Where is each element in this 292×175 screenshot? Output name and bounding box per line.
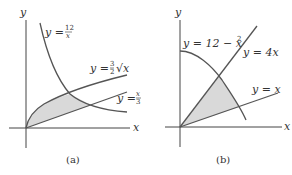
x-axis-label-b: x — [284, 120, 291, 133]
shaded-region-b — [180, 77, 239, 127]
svg-text:2: 2 — [110, 68, 114, 76]
y-axis-label-a: y — [19, 6, 27, 19]
svg-text:x: x — [136, 90, 140, 98]
label-12-minus-x-squared: y = 12 − x 2 — [182, 35, 243, 50]
svg-text:y =: y = — [116, 92, 136, 105]
svg-text:√x: √x — [116, 62, 130, 75]
svg-text:12: 12 — [65, 24, 74, 32]
panel-a: y x y = 12 x y = 3 2 √x y = x 3 (a) — [9, 6, 141, 165]
label-12-over-x: y = 12 x — [44, 24, 74, 40]
label-y-equals-x: y = x — [251, 83, 281, 96]
svg-text:y = 12 − x: y = 12 − x — [182, 37, 243, 50]
svg-text:2: 2 — [237, 35, 241, 43]
svg-text:y =: y = — [44, 26, 64, 39]
label-x-over-3: y = x 3 — [116, 90, 141, 106]
caption-b: (b) — [216, 154, 230, 165]
svg-text:y =: y = — [89, 62, 109, 75]
label-4x: y = 4x — [242, 46, 279, 59]
panel-b: y x y = 12 − x 2 y = 4x y = x (b) — [165, 6, 291, 165]
y-axis-label-b: y — [174, 6, 182, 19]
x-axis-label-a: x — [133, 121, 140, 134]
svg-text:3: 3 — [110, 60, 114, 68]
caption-a: (a) — [66, 154, 80, 165]
svg-text:x: x — [66, 32, 70, 40]
label-sqrt-x: y = 3 2 √x — [89, 60, 130, 76]
svg-text:3: 3 — [136, 98, 140, 106]
figure: y x y = 12 x y = 3 2 √x y = x 3 (a) — [0, 0, 292, 175]
